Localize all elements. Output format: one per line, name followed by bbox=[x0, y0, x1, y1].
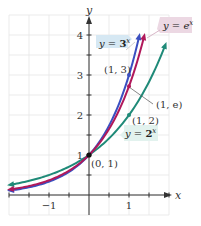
point-label-1-2: (1, 2) bbox=[132, 115, 159, 126]
y-axis-label: y bbox=[85, 4, 93, 17]
arrowhead-icon bbox=[140, 33, 146, 41]
x-tick-label: 1 bbox=[126, 200, 132, 211]
point-label-1-3: (1, 3) bbox=[104, 64, 131, 75]
x-axis-label: x bbox=[175, 189, 182, 202]
svg-text:y = ex: y = ex bbox=[162, 19, 193, 31]
y-tick-label: 2 bbox=[77, 110, 83, 121]
point-1-3 bbox=[127, 73, 131, 77]
svg-text:y = 3x: y = 3x bbox=[98, 37, 130, 49]
point-1-2 bbox=[127, 113, 131, 117]
point-1-e bbox=[127, 84, 131, 88]
point-label-0-1: (0, 1) bbox=[91, 158, 118, 169]
x-axis-arrow-icon bbox=[164, 192, 172, 198]
svg-text:y = 2x: y = 2x bbox=[124, 127, 156, 139]
exponential-functions-chart: −1 1 1 2 3 4 x y y = 3x y = ex y = 2x (1… bbox=[0, 0, 201, 226]
curves bbox=[7, 33, 167, 193]
x-axis bbox=[9, 192, 172, 198]
arrowhead-icon bbox=[161, 42, 167, 50]
label-box-3x: y = 3x bbox=[96, 35, 132, 49]
y-tick-label: 4 bbox=[77, 30, 83, 41]
label-box-2x: y = 2x bbox=[120, 125, 158, 141]
y-axis-arrow-icon bbox=[86, 16, 92, 24]
y-tick-label: 3 bbox=[77, 70, 83, 81]
x-tick-label: −1 bbox=[42, 200, 57, 211]
point-0-1 bbox=[86, 152, 91, 157]
arrowhead-icon bbox=[135, 33, 141, 40]
point-label-1-e: (1, e) bbox=[156, 99, 183, 110]
